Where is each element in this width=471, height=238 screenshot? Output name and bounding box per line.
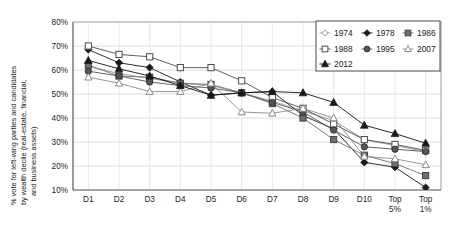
x-tick-label: D5 [206,195,217,204]
data-point-marker [116,51,122,57]
data-point-marker [405,30,411,36]
data-point-marker [239,78,245,84]
data-point-marker [364,46,370,52]
x-tick-label: D3 [144,195,155,204]
series-line [88,71,425,151]
legend-label: 1978 [376,28,395,38]
data-point-marker [85,73,92,80]
series-2007 [85,73,430,167]
y-axis-tick-labels: 10%20%30%40%50%60%70%80% [52,18,68,195]
series-line [88,60,425,143]
legend-label: 2012 [334,59,353,69]
data-point-marker [361,144,367,150]
data-point-marker [269,99,275,105]
x-tick-label: D8 [298,195,309,204]
y-tick-label: 50% [52,90,68,99]
x-tick-label: D9 [328,195,339,204]
data-point-marker [146,79,152,85]
x-tick-label: D4 [175,195,186,204]
y-axis-title: % vote for left-wing parties and candida… [0,0,40,238]
data-point-marker [423,173,429,179]
y-tick-label: 10% [52,186,68,195]
x-tick-label: Top [419,195,433,204]
y-tick-label: 30% [52,138,68,147]
data-point-marker [322,46,328,52]
legend-label: 2007 [417,44,436,54]
data-point-marker [85,43,91,49]
legend-label: 1988 [334,44,353,54]
chart-plot-area: 10%20%30%40%50%60%70%80% D1D2D3D4D5D6D7D… [0,0,471,238]
chart-figure: % vote for left-wing parties and candida… [0,0,471,238]
data-point-marker [147,54,153,60]
y-tick-label: 20% [52,162,68,171]
data-point-marker [361,137,367,143]
y-axis-title-line-3: and business assets) [29,127,39,196]
data-point-marker [300,115,306,121]
y-axis-title-line-1: % vote for left-wing parties and candida… [9,66,19,205]
x-tick-label: D6 [236,195,247,204]
data-point-marker [392,146,398,152]
series-line [88,65,425,175]
data-point-marker [177,65,183,71]
series-line [88,66,425,151]
y-axis-title-line-2: by wealth decile (real-estate, financial… [19,80,29,205]
legend-label: 1974 [334,28,353,38]
x-tick-label-line2: 5% [389,205,401,214]
y-tick-label: 60% [52,66,68,75]
y-tick-label: 80% [52,18,68,27]
data-point-marker [331,137,337,143]
x-tick-label: D2 [114,195,125,204]
data-point-marker [422,148,428,154]
chart-legend: 1974197819861988199520072012 [316,21,440,71]
legend-label: 1986 [417,28,436,38]
data-point-marker [331,121,337,127]
series-line [88,77,425,165]
x-tick-label: Top [388,195,402,204]
x-tick-label: D1 [83,195,94,204]
data-point-marker [330,127,336,133]
data-point-marker [85,56,93,63]
y-tick-label: 40% [52,114,68,123]
y-tick-label: 70% [52,42,68,51]
x-tick-label: D7 [267,195,278,204]
data-point-marker [208,65,214,71]
legend-label: 1995 [376,44,395,54]
data-point-marker [361,121,369,128]
x-axis-tick-labels: D1D2D3D4D5D6D7D8D9D10Top5%Top1% [83,195,433,214]
x-tick-label-line2: 1% [420,205,432,214]
x-tick-label: D10 [357,195,372,204]
data-point-marker [116,73,122,79]
